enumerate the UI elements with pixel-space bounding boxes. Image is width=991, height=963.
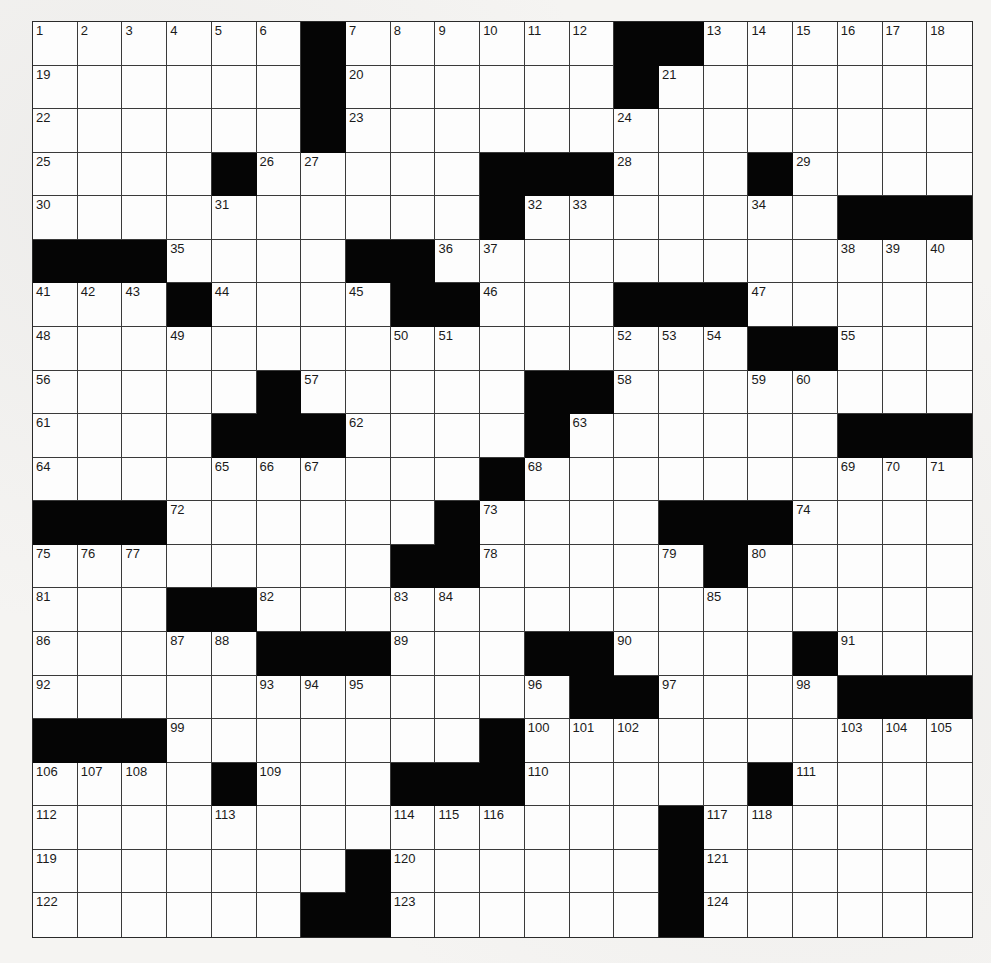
grid-cell[interactable] bbox=[704, 196, 749, 240]
grid-cell[interactable] bbox=[883, 763, 928, 807]
grid-cell[interactable] bbox=[212, 240, 257, 284]
grid-cell[interactable] bbox=[659, 371, 704, 415]
grid-cell[interactable] bbox=[301, 545, 346, 589]
grid-cell[interactable] bbox=[883, 501, 928, 545]
grid-cell[interactable] bbox=[122, 850, 167, 894]
grid-cell[interactable] bbox=[301, 850, 346, 894]
grid-cell[interactable] bbox=[301, 763, 346, 807]
grid-cell[interactable]: 107 bbox=[78, 763, 123, 807]
grid-cell[interactable] bbox=[570, 109, 615, 153]
grid-cell[interactable] bbox=[391, 501, 436, 545]
grid-cell[interactable]: 96 bbox=[525, 676, 570, 720]
grid-cell[interactable] bbox=[525, 327, 570, 371]
grid-cell[interactable] bbox=[435, 109, 480, 153]
grid-cell[interactable] bbox=[122, 806, 167, 850]
grid-cell[interactable]: 88 bbox=[212, 632, 257, 676]
grid-cell[interactable]: 60 bbox=[793, 371, 838, 415]
grid-cell[interactable]: 116 bbox=[480, 806, 525, 850]
grid-cell[interactable]: 110 bbox=[525, 763, 570, 807]
grid-cell[interactable]: 17 bbox=[883, 22, 928, 66]
grid-cell[interactable] bbox=[122, 632, 167, 676]
grid-cell[interactable]: 50 bbox=[391, 327, 436, 371]
grid-cell[interactable] bbox=[212, 327, 257, 371]
grid-cell[interactable]: 103 bbox=[838, 719, 883, 763]
grid-cell[interactable]: 99 bbox=[167, 719, 212, 763]
grid-cell[interactable] bbox=[838, 893, 883, 937]
grid-cell[interactable] bbox=[167, 371, 212, 415]
grid-cell[interactable]: 85 bbox=[704, 588, 749, 632]
grid-cell[interactable] bbox=[883, 327, 928, 371]
grid-cell[interactable] bbox=[78, 371, 123, 415]
grid-cell[interactable]: 80 bbox=[748, 545, 793, 589]
grid-cell[interactable] bbox=[257, 545, 302, 589]
grid-cell[interactable]: 6 bbox=[257, 22, 302, 66]
grid-cell[interactable] bbox=[883, 850, 928, 894]
grid-cell[interactable] bbox=[212, 109, 257, 153]
grid-cell[interactable]: 90 bbox=[614, 632, 659, 676]
grid-cell[interactable]: 109 bbox=[257, 763, 302, 807]
grid-cell[interactable] bbox=[927, 327, 972, 371]
grid-cell[interactable]: 76 bbox=[78, 545, 123, 589]
grid-cell[interactable] bbox=[346, 501, 391, 545]
grid-cell[interactable] bbox=[346, 588, 391, 632]
grid-cell[interactable] bbox=[301, 283, 346, 327]
grid-cell[interactable] bbox=[391, 676, 436, 720]
grid-cell[interactable] bbox=[212, 676, 257, 720]
grid-cell[interactable] bbox=[346, 763, 391, 807]
grid-cell[interactable] bbox=[748, 66, 793, 110]
grid-cell[interactable] bbox=[525, 850, 570, 894]
grid-cell[interactable] bbox=[614, 893, 659, 937]
grid-cell[interactable] bbox=[435, 893, 480, 937]
grid-cell[interactable] bbox=[391, 196, 436, 240]
grid-cell[interactable] bbox=[525, 545, 570, 589]
grid-cell[interactable] bbox=[570, 240, 615, 284]
grid-cell[interactable] bbox=[793, 850, 838, 894]
grid-cell[interactable] bbox=[927, 153, 972, 197]
grid-cell[interactable] bbox=[301, 719, 346, 763]
grid-cell[interactable] bbox=[570, 458, 615, 502]
grid-cell[interactable] bbox=[212, 66, 257, 110]
grid-cell[interactable] bbox=[435, 414, 480, 458]
grid-cell[interactable]: 21 bbox=[659, 66, 704, 110]
grid-cell[interactable]: 122 bbox=[33, 893, 78, 937]
grid-cell[interactable] bbox=[838, 109, 883, 153]
grid-cell[interactable]: 15 bbox=[793, 22, 838, 66]
grid-cell[interactable] bbox=[570, 763, 615, 807]
grid-cell[interactable] bbox=[257, 109, 302, 153]
grid-cell[interactable]: 44 bbox=[212, 283, 257, 327]
grid-cell[interactable] bbox=[122, 414, 167, 458]
grid-cell[interactable] bbox=[435, 719, 480, 763]
grid-cell[interactable] bbox=[301, 588, 346, 632]
grid-cell[interactable] bbox=[883, 893, 928, 937]
grid-cell[interactable]: 68 bbox=[525, 458, 570, 502]
grid-cell[interactable] bbox=[78, 588, 123, 632]
grid-cell[interactable] bbox=[838, 66, 883, 110]
grid-cell[interactable]: 19 bbox=[33, 66, 78, 110]
grid-cell[interactable] bbox=[927, 588, 972, 632]
grid-cell[interactable] bbox=[793, 893, 838, 937]
grid-cell[interactable]: 39 bbox=[883, 240, 928, 284]
grid-cell[interactable] bbox=[122, 893, 167, 937]
grid-cell[interactable]: 8 bbox=[391, 22, 436, 66]
grid-cell[interactable]: 62 bbox=[346, 414, 391, 458]
grid-cell[interactable] bbox=[257, 806, 302, 850]
grid-cell[interactable] bbox=[748, 240, 793, 284]
grid-cell[interactable]: 59 bbox=[748, 371, 793, 415]
grid-cell[interactable] bbox=[748, 588, 793, 632]
grid-cell[interactable] bbox=[838, 850, 883, 894]
grid-cell[interactable]: 84 bbox=[435, 588, 480, 632]
grid-cell[interactable] bbox=[435, 632, 480, 676]
grid-cell[interactable] bbox=[793, 806, 838, 850]
grid-cell[interactable] bbox=[659, 196, 704, 240]
grid-cell[interactable] bbox=[704, 109, 749, 153]
grid-cell[interactable] bbox=[570, 283, 615, 327]
grid-cell[interactable] bbox=[435, 458, 480, 502]
grid-cell[interactable] bbox=[122, 153, 167, 197]
grid-cell[interactable]: 18 bbox=[927, 22, 972, 66]
grid-cell[interactable] bbox=[659, 240, 704, 284]
grid-cell[interactable]: 53 bbox=[659, 327, 704, 371]
grid-cell[interactable] bbox=[838, 283, 883, 327]
grid-cell[interactable] bbox=[525, 283, 570, 327]
grid-cell[interactable] bbox=[614, 850, 659, 894]
grid-cell[interactable]: 13 bbox=[704, 22, 749, 66]
